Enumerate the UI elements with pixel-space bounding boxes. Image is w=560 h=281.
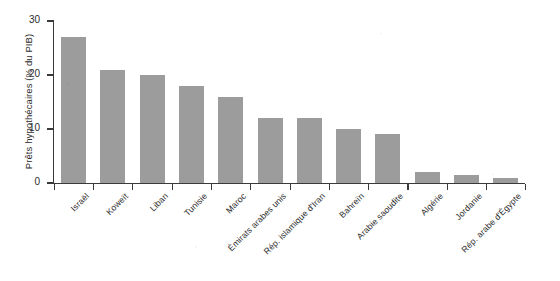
x-axis-tick bbox=[486, 184, 487, 190]
x-axis-label: Liban bbox=[147, 191, 169, 213]
x-axis-tick bbox=[93, 184, 94, 190]
x-axis-tick bbox=[250, 184, 251, 190]
x-axis-label: Tunisie bbox=[182, 191, 209, 218]
bar bbox=[100, 70, 125, 183]
bar bbox=[336, 129, 361, 183]
x-axis-tick bbox=[447, 184, 448, 190]
y-axis-line bbox=[53, 21, 54, 184]
bar bbox=[258, 118, 283, 183]
bar bbox=[454, 175, 479, 183]
x-axis-tick bbox=[132, 184, 133, 190]
x-axis-tick bbox=[290, 184, 291, 190]
y-axis-tick bbox=[47, 20, 54, 21]
x-axis-tick bbox=[211, 184, 212, 190]
y-axis-tick-label: 30 bbox=[0, 14, 40, 25]
x-axis-label: Bahreïn bbox=[337, 191, 366, 220]
x-axis-tick bbox=[329, 184, 330, 190]
bar bbox=[218, 97, 243, 183]
bar bbox=[493, 178, 518, 183]
y-axis-tick-labels: 0102030 bbox=[0, 0, 46, 281]
y-axis-tick bbox=[47, 128, 54, 129]
bar bbox=[415, 172, 440, 183]
bar bbox=[297, 118, 322, 183]
bar bbox=[140, 75, 165, 183]
x-axis-tick bbox=[368, 184, 369, 190]
bar bbox=[375, 134, 400, 183]
bar bbox=[179, 86, 204, 183]
x-axis-label: Koweït bbox=[104, 191, 130, 217]
x-axis-tick bbox=[172, 184, 173, 190]
x-axis-tick-origin bbox=[54, 184, 55, 190]
bar bbox=[61, 37, 86, 183]
x-axis-tick bbox=[525, 184, 526, 190]
y-axis-tick-label: 20 bbox=[0, 68, 40, 79]
x-axis-label: Maroc bbox=[224, 191, 248, 215]
x-axis-label: Jordanie bbox=[453, 191, 484, 222]
x-axis-label: Israël bbox=[69, 191, 91, 213]
bar-chart: Prêts hypothécaires (% du PIB) 0102030 I… bbox=[0, 0, 560, 281]
y-axis-tick-label: 10 bbox=[0, 122, 40, 133]
y-axis-tick bbox=[47, 74, 54, 75]
x-axis-tick bbox=[407, 184, 408, 190]
y-axis-tick-label: 0 bbox=[0, 176, 40, 187]
x-axis-label: Algérie bbox=[418, 191, 444, 217]
